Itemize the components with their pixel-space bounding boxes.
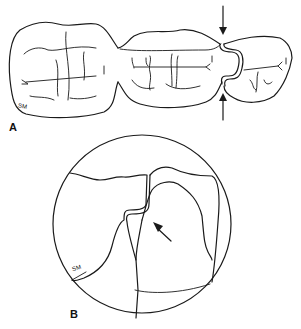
signature-b: SM [71,264,81,272]
dental-illustration: SM A SM B [0,0,301,329]
panel-label-a: A [9,121,17,133]
panel-label-b: B [70,308,78,320]
panel-a-drawing [0,0,301,130]
signature-a: SM [18,102,28,109]
